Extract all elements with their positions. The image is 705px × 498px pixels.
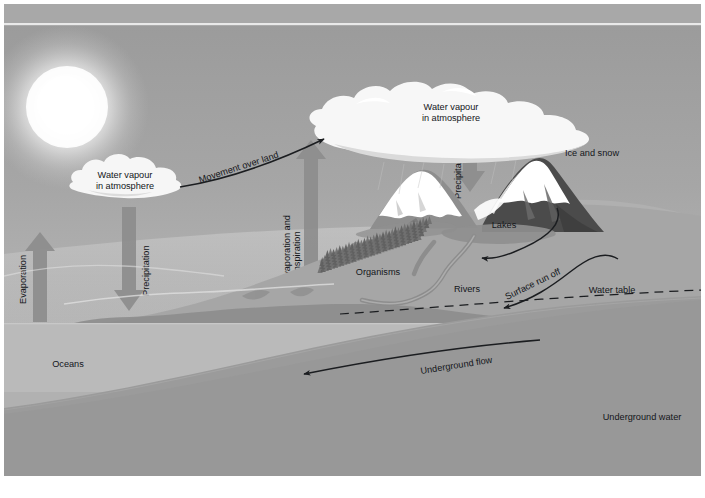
precipitation-left-label: Precipitation [141,245,151,296]
organisms-label: Organisms [356,267,401,277]
oceans-label: Oceans [52,359,84,369]
cloud-left-label-line1: Water vapour [98,170,153,180]
water-table-label: Water table [589,285,636,295]
diagram-canvas: Evaporation Precipitation Evaporation an… [0,0,705,498]
underground-water-label: Underground water [603,412,682,422]
cloud-right-label-line2: in atmosphere [422,113,480,123]
cloud-left-label-line2: in atmosphere [96,181,154,191]
ice-and-snow-label: Ice and snow [565,148,620,158]
rivers-label: Rivers [454,284,480,294]
cloud-right-label-line1: Water vapour [424,102,479,112]
diagram-frame: Evaporation Precipitation Evaporation an… [4,4,701,476]
sky-top-band-divider [4,23,701,25]
water-cycle-illustration: Evaporation Precipitation Evaporation an… [4,4,701,476]
sky-top-band [4,4,701,23]
evaporation-label: Evaporation [18,255,28,304]
lakes-label: Lakes [492,220,517,230]
bedrock-band [4,392,701,476]
